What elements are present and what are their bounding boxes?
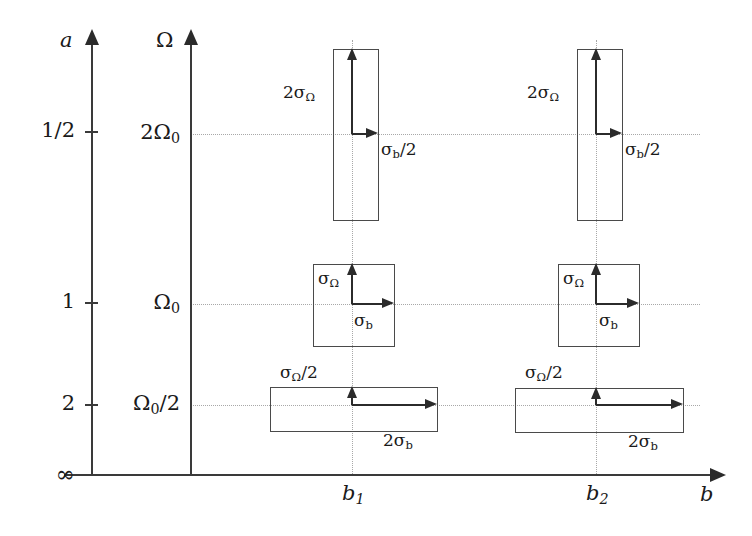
b-axis-label: b bbox=[700, 484, 713, 505]
b-axis-tick-label: b1 bbox=[342, 483, 365, 506]
sigma-b-arrowhead-icon bbox=[425, 399, 437, 409]
a-axis-tick-mark bbox=[85, 131, 98, 133]
sigma-omega-label: 2σΩ bbox=[283, 84, 315, 104]
sigma-b-label: 2σb bbox=[628, 433, 658, 453]
sigma-b-arrow bbox=[596, 303, 628, 305]
a-axis-tick-mark bbox=[85, 302, 98, 304]
a-axis-tick-label: 2 bbox=[62, 393, 75, 414]
sigma-omega-label: σΩ/2 bbox=[280, 364, 318, 384]
sigma-b-arrow bbox=[352, 133, 367, 135]
sigma-omega-arrowhead-icon bbox=[591, 48, 601, 60]
sigma-omega-label: σΩ bbox=[563, 270, 584, 290]
gridline-horizontal bbox=[190, 134, 700, 135]
sigma-omega-label: σΩ/2 bbox=[525, 364, 563, 384]
omega-axis-tick-label: Ω0 bbox=[154, 292, 181, 315]
sigma-omega-arrowhead-icon bbox=[347, 386, 357, 398]
a-axis-line bbox=[91, 44, 93, 476]
omega-axis-tick-label: 2Ω0 bbox=[140, 122, 180, 145]
a-axis-tick-label: 1/2 bbox=[41, 120, 75, 141]
sigma-b-arrowhead-icon bbox=[366, 128, 378, 138]
b-axis-arrowhead-icon bbox=[710, 468, 726, 482]
sigma-b-arrow bbox=[596, 133, 611, 135]
figure-canvas: a Ω b 1/212∞ 2Ω0Ω0Ω0/2 b1b2 2σΩσb/2σΩσbσ… bbox=[0, 0, 752, 536]
sigma-b-label: 2σb bbox=[383, 432, 413, 452]
a-axis-tick-label: ∞ bbox=[56, 463, 75, 486]
b-axis-tick-label: b2 bbox=[586, 483, 609, 506]
sigma-b-arrowhead-icon bbox=[671, 399, 683, 409]
a-axis-tick-mark bbox=[85, 404, 98, 406]
a-axis-arrowhead-icon bbox=[85, 29, 99, 45]
b-axis-line bbox=[64, 474, 712, 476]
sigma-b-label: σb/2 bbox=[381, 141, 417, 161]
omega-axis-tick-label: Ω0/2 bbox=[133, 393, 180, 416]
sigma-b-arrowhead-icon bbox=[610, 128, 622, 138]
omega-axis-line bbox=[190, 44, 192, 476]
sigma-omega-arrowhead-icon bbox=[591, 263, 601, 275]
sigma-omega-arrow bbox=[595, 274, 597, 304]
a-axis-tick-label: 1 bbox=[62, 291, 75, 312]
sigma-omega-label: 2σΩ bbox=[527, 84, 559, 104]
a-axis-label: a bbox=[60, 30, 73, 51]
sigma-b-arrow bbox=[352, 303, 383, 305]
sigma-omega-arrow bbox=[351, 274, 353, 304]
sigma-b-arrowhead-icon bbox=[627, 298, 639, 308]
sigma-b-label: σb bbox=[354, 312, 373, 332]
sigma-b-arrowhead-icon bbox=[382, 298, 394, 308]
omega-axis-arrowhead-icon bbox=[184, 29, 198, 45]
sigma-omega-arrow bbox=[351, 59, 353, 134]
omega-axis-label: Ω bbox=[156, 30, 173, 51]
sigma-b-label: σb bbox=[599, 312, 618, 332]
sigma-omega-label: σΩ bbox=[318, 270, 339, 290]
sigma-omega-arrowhead-icon bbox=[347, 48, 357, 60]
sigma-omega-arrow bbox=[595, 59, 597, 134]
sigma-omega-arrowhead-icon bbox=[347, 263, 357, 275]
sigma-b-arrow bbox=[596, 404, 672, 406]
sigma-b-label: σb/2 bbox=[625, 141, 661, 161]
sigma-omega-arrowhead-icon bbox=[591, 387, 601, 399]
sigma-b-arrow bbox=[352, 404, 426, 406]
